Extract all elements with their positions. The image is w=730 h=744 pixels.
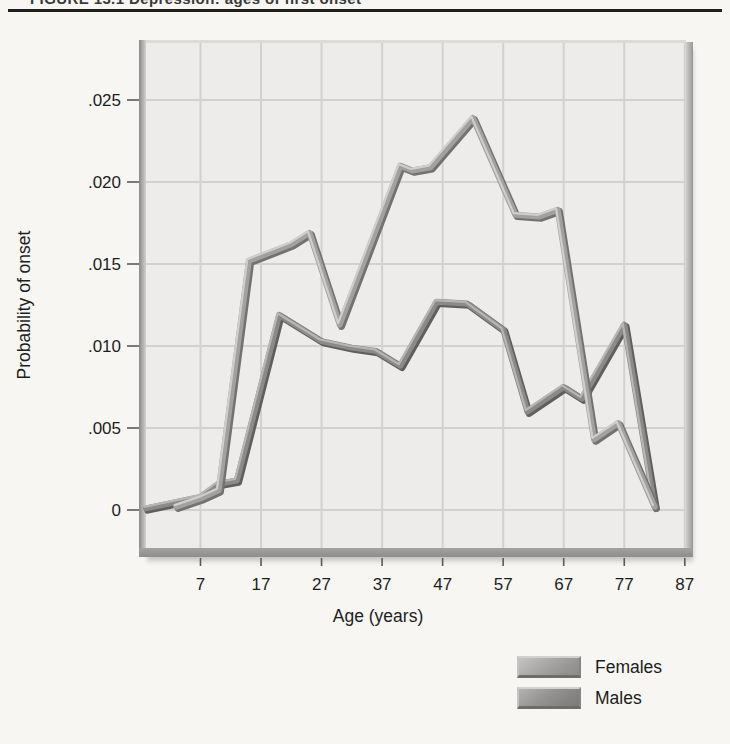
y-tick-label: 0 [112, 501, 121, 520]
x-tick-label: 77 [615, 575, 634, 594]
chart-canvas: 717273747576777870.005.010.015.020.025 A… [0, 14, 730, 662]
panel-bevel-top [146, 40, 686, 43]
plot-panel [146, 42, 686, 548]
figure-caption-clipped: FIGURE 13.1 Depression: ages of first on… [30, 0, 500, 7]
y-tick-label: .020 [88, 173, 121, 192]
panel-bevel-right [686, 42, 693, 557]
x-tick-label: 27 [312, 575, 331, 594]
legend: Females Males [517, 655, 727, 717]
y-tick-label: .015 [88, 255, 121, 274]
y-axis-title: Probability of onset [14, 230, 34, 379]
page: FIGURE 13.1 Depression: ages of first on… [0, 0, 730, 744]
legend-label-males: Males [595, 688, 642, 709]
header-rule [8, 9, 722, 12]
x-tick-label: 47 [433, 575, 452, 594]
males-series-swatch [517, 687, 581, 709]
legend-item-females: Females [517, 655, 727, 679]
females-series-swatch [517, 656, 581, 678]
y-tick-label: .025 [88, 91, 121, 110]
panel-bevel-bottom [139, 548, 693, 557]
legend-item-males: Males [517, 686, 727, 710]
line-chart: 717273747576777870.005.010.015.020.025 A… [0, 14, 730, 662]
figure-caption-text: FIGURE 13.1 Depression: ages of first on… [30, 0, 500, 7]
x-tick-label: 87 [675, 575, 694, 594]
x-tick-label: 7 [196, 575, 205, 594]
x-tick-label: 57 [494, 575, 513, 594]
y-tick-label: .005 [88, 419, 121, 438]
x-tick-label: 67 [554, 575, 573, 594]
y-tick-label: .010 [88, 337, 121, 356]
legend-label-females: Females [595, 657, 662, 678]
x-tick-label: 17 [252, 575, 271, 594]
x-axis-title: Age (years) [333, 606, 423, 626]
x-tick-label: 37 [373, 575, 392, 594]
panel-bevel-left [139, 40, 146, 557]
